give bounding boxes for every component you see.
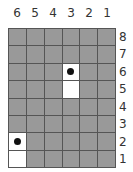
board-cell-1-7[interactable] [98, 46, 115, 62]
board-cell-3-8[interactable] [63, 29, 80, 45]
board-cell-2-1[interactable] [80, 151, 97, 167]
board-cell-5-1[interactable] [27, 151, 44, 167]
board-cell-2-7[interactable] [80, 46, 97, 62]
board-cell-3-4[interactable] [63, 99, 80, 115]
board-cell-1-5[interactable] [98, 81, 115, 97]
board-cell-5-3[interactable] [27, 116, 44, 132]
column-label: 5 [26, 5, 44, 21]
piece-dot-icon [67, 68, 74, 75]
board-cell-3-1[interactable] [63, 151, 80, 167]
column-label: 3 [62, 5, 80, 21]
column-label: 6 [8, 5, 26, 21]
board-cell-6-7[interactable] [9, 46, 26, 62]
board-cell-4-5[interactable] [45, 81, 62, 97]
column-label: 4 [44, 5, 62, 21]
board-cell-1-8[interactable] [98, 29, 115, 45]
board-cell-5-7[interactable] [27, 46, 44, 62]
board-cell-4-3[interactable] [45, 116, 62, 132]
board-cell-6-5[interactable] [9, 81, 26, 97]
row-label: 4 [119, 98, 133, 116]
board-cell-1-1[interactable] [98, 151, 115, 167]
board-cell-3-7[interactable] [63, 46, 80, 62]
board-cell-6-1[interactable] [9, 151, 26, 167]
board-cell-1-2[interactable] [98, 133, 115, 149]
board-cell-2-6[interactable] [80, 64, 97, 80]
row-label: 3 [119, 116, 133, 134]
board-cell-5-2[interactable] [27, 133, 44, 149]
board-cell-2-4[interactable] [80, 99, 97, 115]
row-label: 5 [119, 81, 133, 99]
board-cell-3-3[interactable] [63, 116, 80, 132]
board-cell-6-8[interactable] [9, 29, 26, 45]
board-cell-6-4[interactable] [9, 99, 26, 115]
column-label: 2 [80, 5, 98, 21]
board-cell-3-2[interactable] [63, 133, 80, 149]
board-cell-6-3[interactable] [9, 116, 26, 132]
board-cell-5-6[interactable] [27, 64, 44, 80]
board-cell-2-8[interactable] [80, 29, 97, 45]
board-cell-4-2[interactable] [45, 133, 62, 149]
row-label: 2 [119, 133, 133, 151]
board-cell-5-8[interactable] [27, 29, 44, 45]
column-label: 1 [98, 5, 116, 21]
row-label: 7 [119, 46, 133, 64]
board-cell-3-6[interactable] [63, 64, 80, 80]
board-cell-4-1[interactable] [45, 151, 62, 167]
board-cell-4-8[interactable] [45, 29, 62, 45]
board-cell-4-4[interactable] [45, 99, 62, 115]
row-label: 6 [119, 63, 133, 81]
board-cell-3-5[interactable] [63, 81, 80, 97]
column-labels: 6 5 4 3 2 1 [8, 5, 116, 21]
row-label: 1 [119, 151, 133, 169]
board-cell-1-3[interactable] [98, 116, 115, 132]
board-cell-2-3[interactable] [80, 116, 97, 132]
piece-dot-icon [14, 138, 21, 145]
board-cell-1-4[interactable] [98, 99, 115, 115]
board-cell-4-6[interactable] [45, 64, 62, 80]
board-cell-5-4[interactable] [27, 99, 44, 115]
board-cell-1-6[interactable] [98, 64, 115, 80]
board-cell-2-5[interactable] [80, 81, 97, 97]
board-cell-6-6[interactable] [9, 64, 26, 80]
row-label: 8 [119, 28, 133, 46]
row-labels: 8 7 6 5 4 3 2 1 [119, 28, 133, 168]
board-cell-5-5[interactable] [27, 81, 44, 97]
board-cell-2-2[interactable] [80, 133, 97, 149]
board-cell-4-7[interactable] [45, 46, 62, 62]
game-board [8, 28, 116, 168]
board-cell-6-2[interactable] [9, 133, 26, 149]
